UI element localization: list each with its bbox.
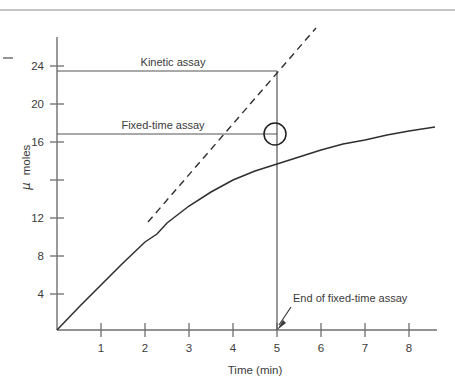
enzyme-assay-progress-curve-figure: 24 20 16 12 8 4 μ moles 1 2 3 4 5 6 7 8 … [0, 0, 455, 388]
x-tick-label-4: 4 [230, 342, 237, 354]
y-tick-label-20: 20 [31, 98, 44, 110]
y-tick-label-12: 12 [31, 212, 44, 224]
x-tick-label-5: 5 [274, 342, 280, 354]
x-tick-label-8: 8 [406, 342, 412, 354]
x-axis-title: Time (min) [228, 364, 283, 376]
y-tick-label-4: 4 [38, 288, 45, 300]
y-tick-label-24: 24 [31, 60, 44, 72]
x-tick-label-1: 1 [98, 342, 104, 354]
x-tick-label-6: 6 [318, 342, 324, 354]
kinetic-assay-annotation: Kinetic assay [141, 56, 206, 68]
y-axis-title-word: moles [20, 144, 32, 175]
x-tick-label-7: 7 [362, 342, 368, 354]
end-of-fixed-time-assay-arrow [277, 307, 291, 330]
fixed-time-assay-annotation: Fixed-time assay [121, 119, 205, 131]
end-of-fixed-time-assay-annotation: End of fixed-time assay [293, 292, 408, 304]
y-axis-title-symbol: μ [19, 182, 33, 190]
y-tick-label-16: 16 [31, 136, 44, 148]
x-tick-label-2: 2 [142, 342, 148, 354]
y-tick-label-8: 8 [38, 250, 44, 262]
x-tick-label-3: 3 [186, 342, 192, 354]
y-axis-title: μ moles [19, 144, 33, 190]
